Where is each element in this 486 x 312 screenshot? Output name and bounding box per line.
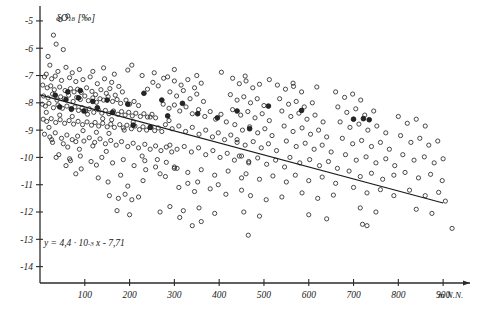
data-point (186, 78, 190, 82)
data-point (56, 69, 60, 73)
data-point (282, 165, 286, 169)
data-point (98, 137, 102, 141)
data-point (378, 140, 382, 144)
data-point (326, 159, 330, 163)
data-point (392, 173, 396, 177)
data-point (42, 132, 46, 136)
data-point-filled (76, 96, 81, 101)
data-point (118, 123, 122, 127)
data-point (257, 82, 261, 86)
data-point (284, 180, 288, 184)
data-point (204, 128, 208, 132)
data-point (354, 158, 358, 162)
data-point-filled (57, 105, 62, 110)
data-point (197, 132, 201, 136)
data-point (67, 118, 71, 122)
data-point (369, 144, 373, 148)
data-point (284, 139, 288, 143)
data-point-filled (82, 109, 87, 114)
data-point (259, 146, 263, 150)
data-point (153, 165, 157, 169)
data-point (130, 63, 134, 67)
data-point (53, 131, 57, 135)
x-axis-tick-label: 500 (257, 290, 272, 300)
data-point (392, 194, 396, 198)
data-point (54, 42, 58, 46)
data-point (365, 224, 369, 228)
data-point (192, 86, 196, 90)
data-point (115, 209, 119, 213)
data-point (112, 125, 116, 129)
y-axis-tick-label: -11 (21, 180, 33, 190)
data-point (151, 80, 155, 84)
data-point (308, 158, 312, 162)
data-point (364, 155, 368, 159)
data-point (103, 142, 107, 146)
data-point (119, 173, 123, 177)
data-point (58, 113, 62, 117)
data-point (450, 226, 454, 230)
x-axis-tick-label: 400 (212, 290, 227, 300)
data-point (235, 138, 239, 142)
data-point (242, 95, 246, 99)
data-point (109, 122, 113, 126)
data-point (186, 181, 190, 185)
y-axis-tick-label: -5 (25, 16, 33, 26)
regression-equation-annotation: y = 4,4 · 10-3 x - 7,71 (44, 238, 125, 248)
data-point (414, 117, 418, 121)
data-point (106, 180, 110, 184)
data-point (92, 110, 96, 114)
data-point (77, 67, 81, 71)
x-axis-tick-label: 800 (391, 290, 406, 300)
data-point (189, 150, 193, 154)
data-point-filled (367, 117, 372, 122)
data-point (291, 129, 295, 133)
data-point (113, 93, 117, 97)
data-point (70, 71, 74, 75)
data-point (131, 141, 135, 145)
data-point (170, 150, 174, 154)
data-point (130, 198, 134, 202)
data-point (443, 199, 447, 203)
data-point (312, 147, 316, 151)
data-point (108, 87, 112, 91)
data-point (351, 142, 355, 146)
data-point (239, 113, 243, 117)
data-point (45, 119, 49, 123)
data-point (405, 121, 409, 125)
data-point-filled (131, 123, 136, 128)
data-point (374, 210, 378, 214)
data-point (58, 118, 62, 122)
data-point (231, 108, 235, 112)
data-point (378, 188, 382, 192)
data-point (186, 170, 190, 174)
data-point (325, 135, 329, 139)
data-point (178, 215, 182, 219)
data-point (354, 107, 358, 111)
data-point (308, 132, 312, 136)
data-point (64, 65, 68, 69)
data-point (51, 33, 55, 37)
data-point (289, 114, 293, 118)
data-point (235, 98, 239, 102)
data-point-filled (351, 117, 356, 122)
data-point (70, 114, 74, 118)
data-point (219, 70, 223, 74)
data-point (179, 83, 183, 87)
data-point (257, 177, 261, 181)
equation-tail: x - 7,71 (96, 238, 125, 248)
data-point (372, 109, 376, 113)
data-point-filled (165, 114, 170, 119)
data-point (307, 213, 311, 217)
data-point (317, 164, 321, 168)
data-point (87, 136, 91, 140)
data-point (91, 69, 95, 73)
data-point (357, 122, 361, 126)
data-point (101, 117, 105, 121)
data-point (71, 122, 75, 126)
data-point (54, 155, 58, 159)
data-point (216, 131, 220, 135)
data-point (226, 169, 230, 173)
data-point (224, 192, 228, 196)
data-point (375, 124, 379, 128)
